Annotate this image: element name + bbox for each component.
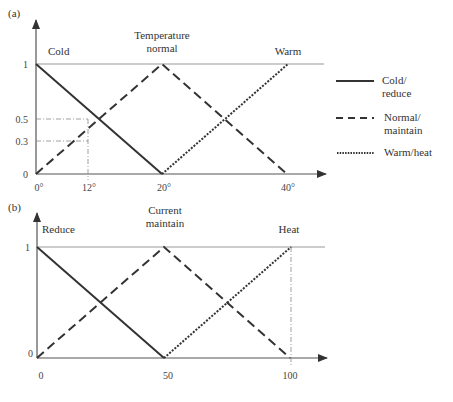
x-tick-100: 100 <box>283 370 298 381</box>
heat-label: Heat <box>279 223 300 235</box>
maintain-label-2: maintain <box>146 217 185 229</box>
legend-cold-line2: reduce <box>382 87 411 99</box>
warm-label: Warm <box>275 45 302 57</box>
panel-a: (a) Cold Temperature normal Warm 1 0.5 0… <box>8 7 326 193</box>
x-tick-20: 20° <box>157 182 171 193</box>
panel-a-label: (a) <box>8 7 21 20</box>
fuzzy-membership-figure: (a) Cold Temperature normal Warm 1 0.5 0… <box>0 0 453 402</box>
panel-b-label: (b) <box>8 201 21 214</box>
panel-b: (b) Reduce Current maintain Heat 1 0 0 5… <box>8 201 327 381</box>
y-tick-1: 1 <box>23 59 28 70</box>
y-tick-03: 0.3 <box>16 136 29 147</box>
y-tick-1: 1 <box>25 242 30 253</box>
reduce-label: Reduce <box>42 223 75 235</box>
legend: Cold/ reduce Normal/ maintain Warm/heat <box>336 74 432 158</box>
maintain-line <box>37 247 290 358</box>
cold-label: Cold <box>48 45 70 57</box>
legend-normal-line1: Normal/ <box>384 111 422 123</box>
legend-warm-line1: Warm/heat <box>384 146 432 158</box>
x-tick-50: 50 <box>163 370 173 381</box>
y-tick-05: 0.5 <box>16 114 29 125</box>
normal-label-2: normal <box>146 42 177 54</box>
y-tick-0: 0 <box>23 169 28 180</box>
normal-label-1: Temperature <box>134 29 190 41</box>
x-tick-0: 0 <box>39 370 44 381</box>
legend-cold-line1: Cold/ <box>382 74 407 86</box>
x-tick-0: 0° <box>35 182 44 193</box>
x-tick-12: 12° <box>82 182 96 193</box>
maintain-label-1: Current <box>148 204 182 216</box>
x-tick-40: 40° <box>281 182 295 193</box>
y-tick-0: 0 <box>28 348 33 359</box>
legend-normal-line2: maintain <box>384 124 423 136</box>
